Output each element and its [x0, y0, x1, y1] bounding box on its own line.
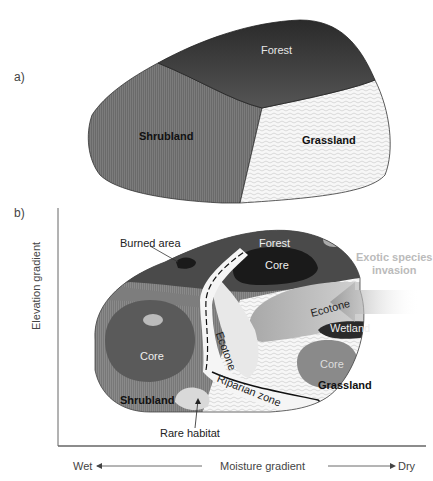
label-wetland: Wetland [330, 322, 370, 334]
x-axis-wet: Wet [73, 460, 92, 472]
label-forest-a: Forest [261, 44, 292, 56]
label-rare-habitat: Rare habitat [160, 427, 220, 439]
x-axis-label: Moisture gradient [220, 460, 305, 472]
label-grassland-b: Grassland [318, 379, 372, 391]
label-grassland-core: Core [320, 358, 344, 370]
label-burned-area: Burned area [120, 237, 181, 249]
label-shrubland-b: Shrubland [120, 394, 174, 406]
shrubland-core [105, 300, 195, 382]
y-axis-label: Elevation gradient [30, 242, 42, 330]
label-forest-b: Forest [259, 237, 290, 249]
label-exotic-invasion: Exotic species invasion [356, 251, 432, 277]
panel-a-label: a) [14, 70, 25, 84]
panel-b-label: b) [14, 206, 25, 220]
exotic-line-1: Exotic species [356, 251, 432, 264]
patch-shrubland [143, 314, 163, 326]
diagram-canvas [0, 0, 433, 481]
panel-a-diagram [88, 20, 390, 203]
label-grassland-a: Grassland [302, 134, 356, 146]
region-forest-b [80, 220, 380, 292]
label-shrubland-a: Shrubland [139, 130, 193, 142]
label-forest-core: Core [265, 259, 289, 271]
exotic-line-2: invasion [356, 264, 432, 277]
label-shrubland-core: Core [140, 350, 164, 362]
x-axis-dry: Dry [398, 460, 415, 472]
